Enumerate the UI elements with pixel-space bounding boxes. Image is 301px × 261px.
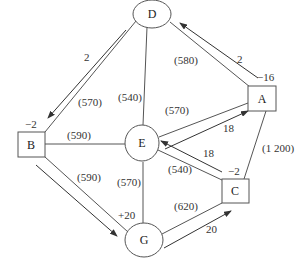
supply-g: +20: [118, 209, 136, 221]
node-c-label: C: [231, 184, 239, 198]
node-g-label: G: [140, 233, 149, 247]
edge-d-b: [45, 21, 136, 132]
cost-e-c: (540): [168, 163, 192, 176]
cost-b-g: (590): [77, 171, 101, 184]
node-b-label: B: [27, 138, 35, 152]
cost-d-a: (580): [174, 54, 198, 67]
network-flow-diagram: D A B E C G −16 −2 −2 +20 (570) (580) (5…: [0, 0, 301, 261]
supply-c: −2: [228, 165, 240, 177]
edge-b-g: [45, 157, 128, 232]
cost-e-a: (570): [165, 104, 189, 117]
flow-arrow-a-d: [180, 23, 258, 78]
flow-e-a: 18: [223, 122, 235, 134]
supply-a: −16: [257, 71, 275, 83]
cost-b-e: (590): [67, 129, 91, 142]
cost-a-c: (1 200): [262, 142, 294, 155]
flow-a-d: 2: [237, 53, 243, 65]
node-a-label: A: [258, 92, 267, 106]
cost-e-g: (570): [117, 176, 141, 189]
supply-b: −2: [25, 118, 37, 130]
cost-d-e: (540): [118, 91, 142, 104]
node-d-label: D: [148, 7, 157, 21]
edge-d-e: [143, 27, 147, 125]
cost-d-b: (570): [78, 96, 102, 109]
flow-g-c: 20: [206, 223, 218, 235]
flow-arrow-g-c: [164, 211, 231, 248]
cost-g-c: (620): [174, 200, 198, 213]
node-e-label: E: [138, 136, 145, 150]
flow-c-e: 18: [203, 147, 215, 159]
flow-d-b: 2: [84, 51, 90, 63]
